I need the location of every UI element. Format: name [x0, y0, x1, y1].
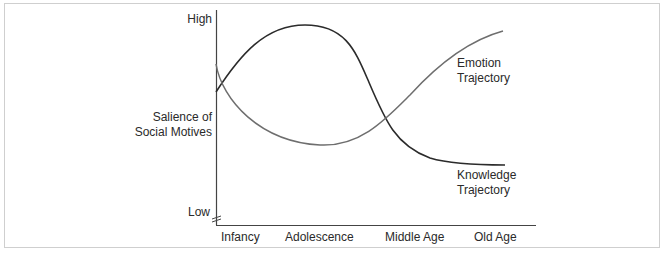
emotion-label-line1: Emotion — [457, 56, 501, 71]
x-tick-adolescence: Adolescence — [285, 230, 354, 245]
x-tick-middle-age: Middle Age — [385, 230, 444, 245]
y-axis-title-line2: Social Motives — [100, 125, 212, 140]
knowledge-trajectory-curve — [216, 25, 505, 165]
emotion-trajectory-curve — [216, 31, 503, 145]
knowledge-label-line2: Trajectory — [457, 183, 510, 198]
emotion-label-line2: Trajectory — [457, 71, 510, 86]
knowledge-label-line1: Knowledge — [457, 168, 516, 183]
y-axis-title-line1: Salience of — [100, 110, 212, 125]
y-tick-high: High — [150, 12, 212, 27]
y-tick-low: Low — [150, 205, 210, 220]
x-tick-infancy: Infancy — [221, 230, 260, 245]
x-tick-old-age: Old Age — [474, 230, 517, 245]
